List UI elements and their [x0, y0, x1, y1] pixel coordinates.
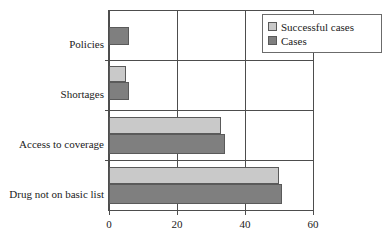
legend-swatch-cases	[268, 36, 277, 45]
xtick-20	[177, 210, 178, 215]
chart-legend: Successful cases Cases	[262, 14, 382, 53]
xtick-label-20: 20	[157, 218, 197, 230]
bar-drug-not-on-basic-list-cases	[109, 184, 282, 204]
bar-shortages-successful-cases	[109, 66, 126, 82]
ytick-3	[105, 160, 109, 161]
bar-drug-not-on-basic-list-successful-cases	[109, 167, 279, 184]
category-label-policies: Policies	[0, 38, 104, 50]
bar-shortages-cases	[109, 82, 129, 100]
x-axis-line	[108, 210, 314, 211]
legend-label-cases: Cases	[281, 35, 307, 47]
legend-item-cases: Cases	[268, 34, 376, 47]
xtick-label-0: 0	[89, 218, 129, 230]
legend-item-successful-cases: Successful cases	[268, 20, 376, 33]
gridline-category-top	[109, 10, 313, 11]
legend-swatch-successful-cases	[268, 22, 277, 31]
xtick-label-40: 40	[225, 218, 265, 230]
category-label-drug-not-on-basic-list: Drug not on basic list	[0, 188, 104, 200]
bar-policies-cases	[109, 27, 129, 45]
xtick-0	[109, 210, 110, 215]
xtick-60	[313, 210, 314, 215]
xtick-40	[245, 210, 246, 215]
legend-label-successful-cases: Successful cases	[281, 21, 354, 33]
category-label-access-to-coverage: Access to coverage	[0, 138, 104, 150]
gridline-category-2	[109, 110, 313, 111]
ytick-2	[105, 110, 109, 111]
gridline-category-3	[109, 160, 313, 161]
bar-chart: Policies Shortages Access to coverage Dr…	[0, 0, 388, 244]
category-label-shortages: Shortages	[0, 88, 104, 100]
gridline-category-1	[109, 60, 313, 61]
bar-access-to-coverage-cases	[109, 134, 225, 154]
xtick-label-60: 60	[293, 218, 333, 230]
ytick-1	[105, 60, 109, 61]
bar-access-to-coverage-successful-cases	[109, 117, 221, 134]
